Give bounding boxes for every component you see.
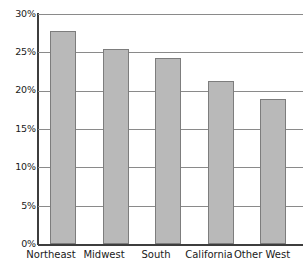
x-tick-label-other-west: Other West <box>222 249 302 261</box>
x-axis-tick-labels: Northeast Midwest South California Other… <box>0 0 305 264</box>
bar-chart: 30% 25% 20% 15% 10% 5% 0% Northeast Midw… <box>0 0 305 264</box>
